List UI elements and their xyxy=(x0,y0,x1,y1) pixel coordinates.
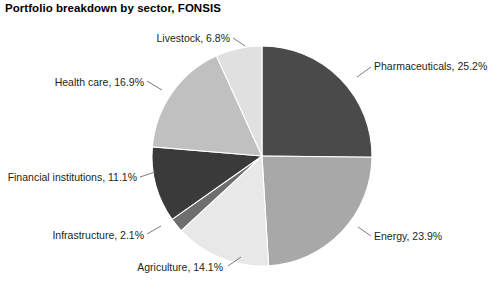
pie-chart-figure: Portfolio breakdown by sector, FONSIS Ph… xyxy=(0,0,498,292)
pie-slice xyxy=(262,46,372,157)
slice-label-livestock: Livestock, 6.8% xyxy=(156,33,230,44)
leader-line-pharmaceuticals xyxy=(357,67,371,77)
pie-chart-svg xyxy=(0,0,498,292)
pie-slice xyxy=(262,156,372,266)
leader-line-infrastructure xyxy=(147,226,161,234)
pie-slice-group xyxy=(152,46,372,266)
leader-line-financial-institutions xyxy=(140,172,155,177)
slice-label-pharmaceuticals: Pharmaceuticals, 25.2% xyxy=(374,61,487,72)
leader-line-health-care xyxy=(147,81,162,90)
leader-line-livestock xyxy=(233,38,245,46)
slice-label-energy: Energy, 23.9% xyxy=(374,231,442,242)
slice-label-financial-institutions: Financial institutions, 11.1% xyxy=(8,172,137,183)
slice-label-infrastructure: Infrastructure, 2.1% xyxy=(52,230,144,241)
slice-label-agriculture: Agriculture, 14.1% xyxy=(137,262,223,273)
slice-label-health-care: Health care, 16.9% xyxy=(55,77,144,88)
leader-line-energy xyxy=(358,227,371,236)
